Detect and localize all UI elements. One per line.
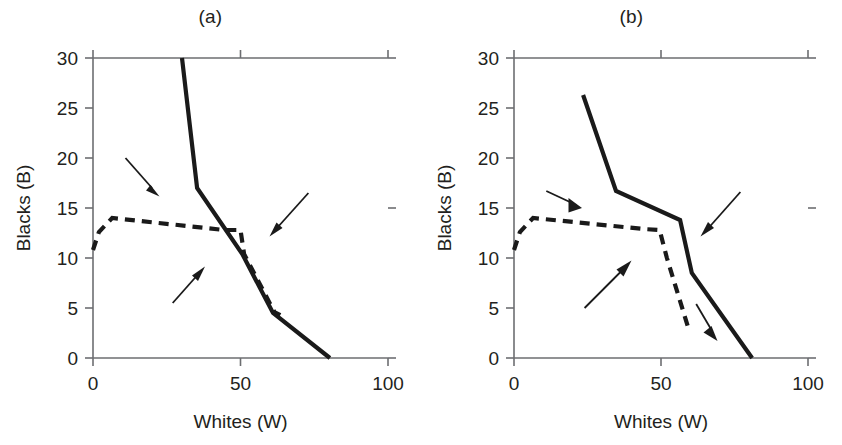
panel-b-series [514,95,752,358]
ytick-15: 15 [57,198,78,219]
arrow-lower-left-a [173,267,205,304]
panel-b-xtick-labels: 0 50 100 [509,373,824,394]
ytick-0: 0 [488,348,499,369]
panel-b-ylabel: Blacks (B) [434,165,455,252]
arrow-upper-left-b [546,191,582,213]
arrow-upper-left-a [126,158,160,197]
arrow-right-b [701,192,741,237]
xtick-100: 100 [792,373,824,394]
ytick-15: 15 [478,198,499,219]
panel-b-plot: 30 25 20 15 10 5 0 0 50 100 Whites (W) B… [421,0,842,445]
xtick-100: 100 [372,373,404,394]
chart-panel-b: (b) [421,0,842,445]
panel-a-xtick-labels: 0 50 100 [88,373,404,394]
panel-a-xlabel: Whites (W) [194,411,288,432]
ytick-5: 5 [67,298,78,319]
arrow-lower-left-b [585,261,632,309]
panel-a-axes [85,50,396,366]
series-solid-a [182,58,330,358]
ytick-10: 10 [57,248,78,269]
panel-b-xlabel: Whites (W) [614,411,708,432]
ytick-25: 25 [478,98,499,119]
xtick-50: 50 [650,373,671,394]
xtick-0: 0 [509,373,520,394]
ytick-10: 10 [478,248,499,269]
chart-panel-a: (a) [0,0,421,445]
series-solid-b [583,95,752,358]
panel-b-axes [506,50,816,366]
panel-a-ylabel: Blacks (B) [13,165,34,252]
panel-a-ytick-labels: 30 25 20 15 10 5 0 [57,48,78,369]
ytick-25: 25 [57,98,78,119]
xtick-50: 50 [230,373,251,394]
series-dashed-a [93,218,280,315]
ytick-5: 5 [488,298,499,319]
ytick-20: 20 [57,148,78,169]
xtick-0: 0 [88,373,99,394]
series-dashed-b [514,218,689,330]
panel-b-ytick-labels: 30 25 20 15 10 5 0 [478,48,499,369]
ytick-0: 0 [67,348,78,369]
ytick-30: 30 [57,48,78,69]
ytick-20: 20 [478,148,499,169]
arrow-right-a [270,193,309,237]
panel-a-plot: 30 25 20 15 10 5 0 0 50 100 Whites (W) B… [0,0,421,445]
panel-b-annotations [546,191,740,341]
ytick-30: 30 [478,48,499,69]
arrow-down-b [696,304,717,341]
figure-root: (a) [0,0,842,445]
